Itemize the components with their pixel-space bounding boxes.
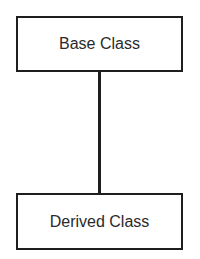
base-class-label: Base Class	[59, 35, 140, 53]
inheritance-edge	[98, 72, 101, 193]
base-class-node: Base Class	[16, 16, 183, 72]
derived-class-label: Derived Class	[50, 213, 150, 231]
derived-class-node: Derived Class	[16, 193, 183, 250]
